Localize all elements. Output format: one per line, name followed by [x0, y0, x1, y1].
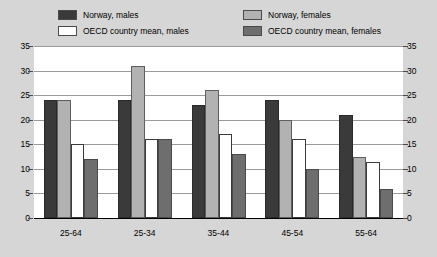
bar-oecd-country-mean-females-25-64: [84, 159, 98, 218]
y-axis-tick-label-left: 20: [10, 116, 30, 124]
y-axis-tick-label-right: 15: [407, 140, 427, 148]
gridline: [34, 71, 403, 72]
legend-item-norway-males: Norway, males: [58, 9, 139, 21]
y-tick-mark-right: [403, 193, 408, 194]
y-axis-tick-label-right: 20: [407, 116, 427, 124]
bar-oecd-country-mean-males-25-64: [71, 144, 85, 218]
y-axis-tick-label-right: 25: [407, 91, 427, 99]
bar-oecd-country-mean-males-25-34: [145, 139, 159, 218]
y-tick-mark-right: [403, 46, 408, 47]
y-axis-tick-label-right: 5: [407, 189, 427, 197]
bar-norway-females-55-64: [353, 157, 367, 218]
bar-norway-males-25-34: [118, 100, 132, 218]
bar-oecd-country-mean-females-25-34: [158, 139, 172, 218]
x-axis-category-label: 45-54: [255, 229, 329, 238]
bar-norway-males-55-64: [339, 115, 353, 218]
legend-swatch-norway-females: [243, 10, 262, 20]
y-tick-mark-left: [28, 95, 33, 96]
chart-legend: Norway, males OECD country mean, males N…: [0, 0, 437, 41]
bar-norway-females-35-44: [205, 90, 219, 218]
legend-swatch-oecd-males: [58, 26, 77, 36]
y-tick-mark-right: [403, 169, 408, 170]
bar-oecd-country-mean-females-45-54: [306, 169, 320, 218]
y-axis-tick-label-right: 35: [407, 42, 427, 50]
y-axis-tick-label-right: 30: [407, 67, 427, 75]
y-axis-tick-label-left: 15: [10, 140, 30, 148]
x-axis-category-label: 55-64: [329, 229, 403, 238]
legend-item-oecd-males: OECD country mean, males: [58, 25, 189, 37]
y-tick-mark-left: [28, 169, 33, 170]
bar-oecd-country-mean-males-45-54: [292, 139, 306, 218]
y-axis-tick-label-right: 0: [407, 214, 427, 222]
gridline: [34, 46, 403, 47]
y-tick-mark-left: [28, 120, 33, 121]
y-tick-mark-left: [28, 46, 33, 47]
x-axis: 25-6425-3435-4445-5455-64: [34, 221, 403, 243]
x-axis-category-label: 25-34: [108, 229, 182, 238]
legend-item-oecd-females: OECD country mean, females: [243, 25, 381, 37]
x-axis-category-label: 35-44: [182, 229, 256, 238]
y-tick-mark-right: [403, 95, 408, 96]
bar-norway-males-35-44: [192, 105, 206, 218]
y-tick-mark-right: [403, 120, 408, 121]
x-axis-category-label: 25-64: [34, 229, 108, 238]
legend-item-norway-females: Norway, females: [243, 9, 331, 21]
y-tick-mark-right: [403, 71, 408, 72]
bar-norway-males-25-64: [44, 100, 58, 218]
y-tick-mark-right: [403, 144, 408, 145]
legend-swatch-oecd-females: [243, 26, 262, 36]
y-tick-mark-left: [28, 193, 33, 194]
y-axis-tick-label-left: 5: [10, 189, 30, 197]
y-axis-left: 05101520253035: [6, 46, 30, 219]
bar-oecd-country-mean-females-35-44: [232, 154, 246, 218]
bar-oecd-country-mean-females-55-64: [380, 189, 394, 218]
bar-norway-females-45-54: [279, 120, 293, 218]
y-tick-mark-left: [28, 144, 33, 145]
legend-label-oecd-females: OECD country mean, females: [268, 26, 381, 36]
legend-label-norway-females: Norway, females: [268, 10, 331, 20]
y-axis-right: 05101520253035: [407, 46, 433, 219]
y-axis-tick-label-right: 10: [407, 165, 427, 173]
bar-chart: Norway, males OECD country mean, males N…: [0, 0, 437, 257]
y-tick-mark-left: [28, 218, 33, 219]
y-axis-tick-label-left: 0: [10, 214, 30, 222]
gridline: [34, 95, 403, 96]
plot-area: [34, 46, 403, 219]
bar-oecd-country-mean-males-55-64: [366, 162, 380, 219]
legend-swatch-norway-males: [58, 10, 77, 20]
legend-label-norway-males: Norway, males: [83, 10, 139, 20]
y-axis-tick-label-left: 35: [10, 42, 30, 50]
legend-label-oecd-males: OECD country mean, males: [83, 26, 189, 36]
y-tick-mark-right: [403, 218, 408, 219]
bar-norway-females-25-34: [131, 66, 145, 218]
bar-norway-females-25-64: [57, 100, 71, 218]
y-tick-mark-left: [28, 71, 33, 72]
bar-norway-males-45-54: [265, 100, 279, 218]
bar-oecd-country-mean-males-35-44: [219, 134, 233, 218]
y-axis-tick-label-left: 25: [10, 91, 30, 99]
y-axis-tick-label-left: 30: [10, 67, 30, 75]
y-axis-tick-label-left: 10: [10, 165, 30, 173]
